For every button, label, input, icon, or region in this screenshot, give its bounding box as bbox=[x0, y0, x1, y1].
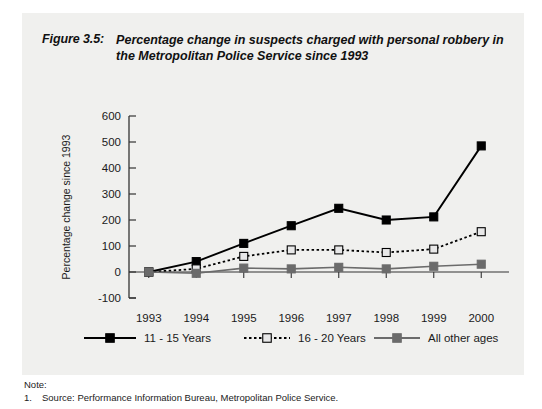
series-marker bbox=[382, 249, 390, 257]
x-axis-tick-label: 1997 bbox=[326, 312, 352, 324]
series-marker bbox=[477, 228, 485, 236]
note-text: Source: Performance Information Bureau, … bbox=[42, 392, 338, 404]
y-axis-title: Percentage change since 1993 bbox=[60, 134, 72, 279]
note-item: 1. Source: Performance Information Burea… bbox=[24, 392, 504, 404]
series-marker bbox=[287, 222, 295, 230]
y-axis-tick-label: 200 bbox=[102, 214, 121, 226]
legend-item: 11 - 15 Years bbox=[84, 332, 211, 344]
series-marker bbox=[335, 246, 343, 254]
y-axis-tick-label: -100 bbox=[98, 292, 121, 304]
figure-heading: Figure 3.5: Percentage change in suspect… bbox=[42, 32, 504, 64]
legend-label: 16 - 20 Years bbox=[298, 332, 366, 344]
series-marker bbox=[430, 245, 438, 253]
figure-title: Percentage change in suspects charged wi… bbox=[116, 32, 504, 64]
figure-panel: Figure 3.5: Percentage change in suspect… bbox=[22, 13, 524, 375]
legend-marker-swatch bbox=[263, 334, 272, 343]
series-marker bbox=[335, 263, 343, 271]
figure-number: Figure 3.5: bbox=[42, 32, 104, 46]
y-axis-tick-label: 400 bbox=[102, 162, 121, 174]
series-marker bbox=[477, 142, 485, 150]
series-marker bbox=[287, 246, 295, 254]
chart-render-root: -1000100200300400500600Percentage change… bbox=[60, 110, 509, 344]
series-marker bbox=[382, 216, 390, 224]
series-marker bbox=[335, 204, 343, 212]
chart-series bbox=[145, 142, 486, 276]
legend-label: All other ages bbox=[428, 332, 499, 344]
series-marker bbox=[477, 260, 485, 268]
series-marker bbox=[192, 269, 200, 277]
x-axis-tick-label: 1996 bbox=[278, 312, 304, 324]
y-axis-tick-label: 0 bbox=[115, 266, 121, 278]
y-axis-tick-label: 100 bbox=[102, 240, 121, 252]
series-marker bbox=[382, 265, 390, 273]
x-axis-tick-label: 1998 bbox=[373, 312, 399, 324]
legend-item: 16 - 20 Years bbox=[244, 332, 366, 344]
y-axis-tick-label: 600 bbox=[102, 110, 121, 122]
series-marker bbox=[240, 264, 248, 272]
legend-item: All other ages bbox=[374, 332, 499, 344]
legend-marker-swatch bbox=[393, 334, 402, 343]
legend-label: 11 - 15 Years bbox=[144, 332, 211, 344]
x-axis-tick-label: 2000 bbox=[468, 312, 494, 324]
x-axis-tick-label: 1995 bbox=[231, 312, 257, 324]
figure-page: Figure 3.5: Percentage change in suspect… bbox=[0, 0, 542, 409]
y-axis-tick-label: 500 bbox=[102, 136, 121, 148]
x-axis-tick-label: 1999 bbox=[421, 312, 447, 324]
notes-heading: Note: bbox=[24, 379, 504, 391]
legend-marker-swatch bbox=[106, 334, 115, 343]
series-marker bbox=[240, 239, 248, 247]
note-number: 1. bbox=[24, 392, 42, 404]
notes-block: Note: 1. Source: Performance Information… bbox=[24, 379, 504, 404]
series-marker bbox=[240, 252, 248, 260]
series-marker bbox=[287, 265, 295, 273]
series-marker bbox=[430, 213, 438, 221]
x-axis-tick-label: 1993 bbox=[136, 312, 162, 324]
chart-area: -1000100200300400500600Percentage change… bbox=[22, 88, 524, 353]
series-marker bbox=[145, 268, 153, 276]
x-axis-tick-label: 1994 bbox=[183, 312, 209, 324]
series-marker bbox=[430, 262, 438, 270]
line-chart: -1000100200300400500600Percentage change… bbox=[22, 88, 524, 353]
y-axis-tick-label: 300 bbox=[102, 188, 121, 200]
